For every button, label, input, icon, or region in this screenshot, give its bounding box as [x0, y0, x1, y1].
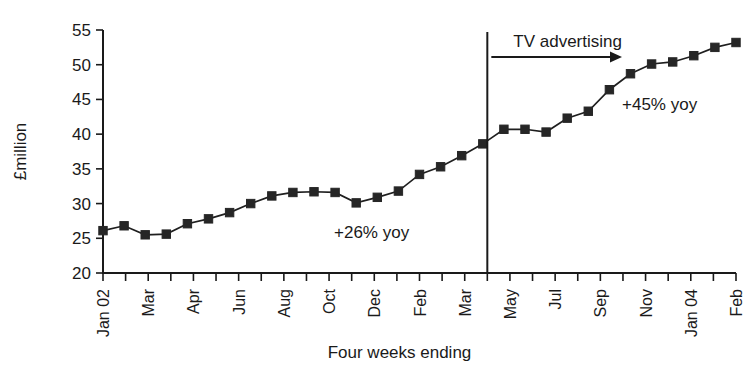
- data-point-marker: [690, 51, 698, 59]
- growth-pre-label: +26% yoy: [334, 223, 410, 242]
- data-series-line: [103, 43, 736, 235]
- data-point-marker: [584, 107, 592, 115]
- data-point-marker: [669, 58, 677, 66]
- x-axis-tick-label: Oct: [321, 288, 338, 313]
- chart-axes: [103, 30, 736, 273]
- data-point-marker: [563, 114, 571, 122]
- data-point-marker: [141, 231, 149, 239]
- data-point-marker: [521, 125, 529, 133]
- x-axis-tick-label: Jan 02: [95, 289, 112, 337]
- x-axis-tick-label: Mar: [457, 288, 474, 316]
- x-axis-tick-label: Jul: [547, 289, 564, 309]
- data-point-marker: [183, 220, 191, 228]
- data-point-marker: [204, 215, 212, 223]
- data-point-marker: [542, 128, 550, 136]
- tv-advertising-arrowhead: [610, 52, 622, 63]
- data-point-marker: [352, 199, 360, 207]
- y-axis-tick-label: 40: [72, 125, 91, 144]
- x-axis-tick-label: Mar: [140, 288, 157, 316]
- x-axis-tick-label: Aug: [276, 289, 293, 317]
- data-point-marker: [500, 125, 508, 133]
- data-point-marker: [373, 193, 381, 201]
- y-axis-tick-label: 55: [72, 21, 91, 40]
- data-point-marker: [120, 222, 128, 230]
- data-point-marker: [605, 86, 613, 94]
- data-point-marker: [99, 226, 107, 234]
- x-axis-tick-label: May: [502, 289, 519, 319]
- data-point-marker: [732, 38, 740, 46]
- data-point-marker: [436, 163, 444, 171]
- data-point-marker: [225, 208, 233, 216]
- data-point-marker: [711, 43, 719, 51]
- data-point-marker: [310, 188, 318, 196]
- data-point-marker: [247, 199, 255, 207]
- x-axis-tick-label: Jun: [231, 289, 248, 315]
- y-axis-tick-label: 45: [72, 90, 91, 109]
- data-point-marker: [331, 188, 339, 196]
- x-axis-tick-label: Feb: [728, 289, 744, 317]
- x-axis-title: Four weeks ending: [328, 343, 472, 362]
- data-point-marker: [458, 151, 466, 159]
- y-axis-tick-label: 20: [72, 264, 91, 283]
- tv-advertising-label: TV advertising: [513, 32, 622, 51]
- data-point-marker: [394, 187, 402, 195]
- line-chart: 2025303540455055£millionJan 02MarAprJunA…: [0, 0, 744, 382]
- y-axis-tick-label: 30: [72, 195, 91, 214]
- data-point-marker: [162, 230, 170, 238]
- x-axis-tick-label: Apr: [185, 288, 202, 314]
- data-point-marker: [268, 192, 276, 200]
- data-point-marker: [415, 170, 423, 178]
- chart-container: 2025303540455055£millionJan 02MarAprJunA…: [0, 0, 744, 382]
- data-point-marker: [289, 188, 297, 196]
- data-point-marker: [647, 60, 655, 68]
- x-axis-tick-label: Sep: [592, 289, 609, 318]
- growth-post-label: +45% yoy: [622, 95, 698, 114]
- x-axis-tick-label: Feb: [412, 289, 429, 317]
- x-axis-tick-label: Nov: [638, 289, 655, 317]
- y-axis-tick-label: 25: [72, 229, 91, 248]
- y-axis-tick-label: 35: [72, 160, 91, 179]
- x-axis-tick-label: Jan 04: [683, 289, 700, 337]
- data-point-marker: [479, 140, 487, 148]
- y-axis-title: £million: [11, 123, 30, 181]
- data-point-marker: [626, 70, 634, 78]
- x-axis-tick-label: Dec: [366, 289, 383, 317]
- y-axis-tick-label: 50: [72, 56, 91, 75]
